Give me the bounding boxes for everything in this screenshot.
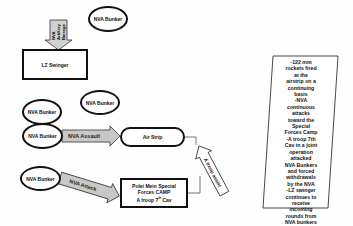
nva-bunker-top[interactable]: NVA Bunker	[88, 6, 128, 32]
airstrip-connector-line	[185, 137, 196, 145]
bunker-label: NVA Bunker	[86, 100, 115, 106]
bunker-label: NVA Bunker	[28, 109, 57, 115]
lz-swinger-box[interactable]: LZ Swinger	[22, 49, 88, 80]
bunker-label: NVA Bunker	[28, 133, 57, 139]
assault-label: NVA Assault	[68, 133, 100, 139]
camp-label-line3: A troop 7th Cav	[136, 195, 171, 203]
situation-note: -122 mm rockets fired at the airstrip on…	[268, 59, 334, 226]
lz-swinger-label: LZ Swinger	[42, 62, 69, 68]
nva-attack-arrow: NVA Attack	[57, 168, 122, 205]
camp-connector-line	[188, 176, 200, 193]
troop-assist-arrow: A troop assist	[191, 142, 232, 198]
nva-assault-arrow: NVA Assault	[62, 126, 120, 146]
nva-bunker-assault[interactable]: NVA Bunker	[22, 123, 63, 149]
bunker-label: NVA Bunker	[26, 176, 55, 182]
artillery-label-3: Barrage	[61, 24, 66, 40]
air-strip-label: Air Strip	[143, 134, 163, 140]
artillery-barrage-arrow: NVA Artillery Barrage	[45, 20, 72, 50]
nva-bunker-attack[interactable]: NVA Bunker	[20, 166, 61, 191]
polei-mei-camp-box[interactable]: Polei Mein Spectal Forces CAMP A troop 7…	[120, 178, 188, 208]
nva-bunker-left-mid[interactable]: NVA Bunker	[22, 99, 62, 125]
air-strip-node[interactable]: Air Strip	[120, 127, 185, 147]
nva-bunker-center-mid[interactable]: NVA Bunker	[80, 90, 120, 115]
bunker-label: NVA Bunker	[94, 16, 123, 22]
